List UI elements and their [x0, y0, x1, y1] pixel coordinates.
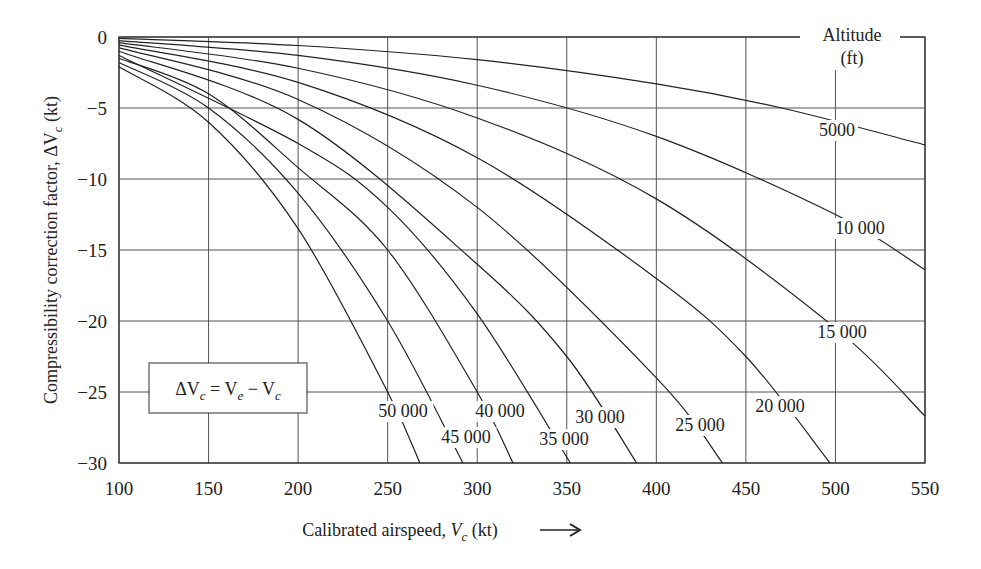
x-tick-label: 300 — [463, 478, 492, 499]
x-tick-label: 150 — [194, 478, 223, 499]
x-tick-label: 250 — [373, 478, 402, 499]
y-tick-label: −20 — [77, 311, 107, 332]
compressibility-chart: 1001502002503003504004505005500−5−10−15−… — [0, 0, 981, 569]
curve-15000 — [119, 43, 925, 416]
y-axis-label: Compressibility correction factor, ΔVc (… — [41, 96, 65, 404]
curve-label-50000: 50 000 — [378, 401, 428, 421]
x-tick-label: 450 — [732, 478, 761, 499]
curve-label-10000: 10 000 — [835, 218, 885, 238]
x-tick-label: 400 — [642, 478, 671, 499]
arrow-right-icon — [540, 524, 580, 536]
curve-label-40000: 40 000 — [475, 401, 525, 421]
curve-label-5000: 5000 — [819, 120, 855, 140]
curve-label-15000: 15 000 — [817, 322, 867, 342]
x-axis-label: Calibrated airspeed, Vc (kt) — [302, 520, 498, 544]
curve-label-45000: 45 000 — [441, 427, 491, 447]
x-tick-label: 500 — [821, 478, 850, 499]
y-tick-label: −10 — [77, 169, 107, 190]
x-tick-label: 200 — [284, 478, 313, 499]
x-tick-label: 350 — [553, 478, 582, 499]
y-tick-label: −15 — [77, 240, 107, 261]
curve-10000 — [119, 41, 925, 270]
legend-title-line2: (ft) — [841, 48, 864, 69]
curve-label-25000: 25 000 — [675, 415, 725, 435]
y-tick-label: −30 — [77, 453, 107, 474]
curve-label-20000: 20 000 — [755, 396, 805, 416]
curve-labels: 500010 00015 00020 00025 00030 00035 000… — [373, 120, 891, 450]
y-tick-label: −5 — [87, 98, 107, 119]
y-tick-label: 0 — [98, 27, 108, 48]
formula-box: ΔVc = Ve − Vc — [149, 363, 307, 413]
curve-label-30000: 30 000 — [575, 407, 625, 427]
legend-title-line1: Altitude — [823, 25, 882, 45]
y-tick-label: −25 — [77, 382, 107, 403]
legend-title: Altitude (ft) — [800, 12, 900, 70]
x-tick-label: 100 — [105, 478, 134, 499]
x-tick-label: 550 — [911, 478, 940, 499]
curve-label-35000: 35 000 — [539, 429, 589, 449]
